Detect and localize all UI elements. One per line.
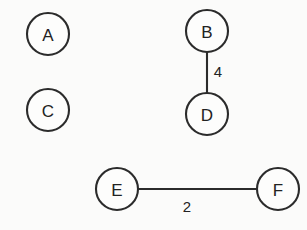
edge-weight-layer: 4 2	[183, 63, 222, 215]
edge-weight-e-f: 2	[183, 198, 191, 215]
node-d[interactable]: D	[186, 93, 228, 135]
node-b-label: B	[201, 23, 212, 42]
node-c-label: C	[42, 102, 54, 121]
node-a-label: A	[42, 26, 54, 45]
node-a[interactable]: A	[27, 13, 69, 55]
edge-weight-b-d: 4	[214, 63, 222, 80]
graph-diagram-canvas: 4 2 A B C D E	[0, 0, 307, 230]
node-layer: A B C D E F	[27, 10, 299, 210]
graph-svg: 4 2 A B C D E	[0, 0, 307, 230]
node-d-label: D	[201, 106, 213, 125]
node-e[interactable]: E	[96, 168, 138, 210]
node-c[interactable]: C	[27, 89, 69, 131]
node-e-label: E	[111, 181, 122, 200]
node-f[interactable]: F	[257, 168, 299, 210]
node-f-label: F	[273, 181, 283, 200]
node-b[interactable]: B	[186, 10, 228, 52]
